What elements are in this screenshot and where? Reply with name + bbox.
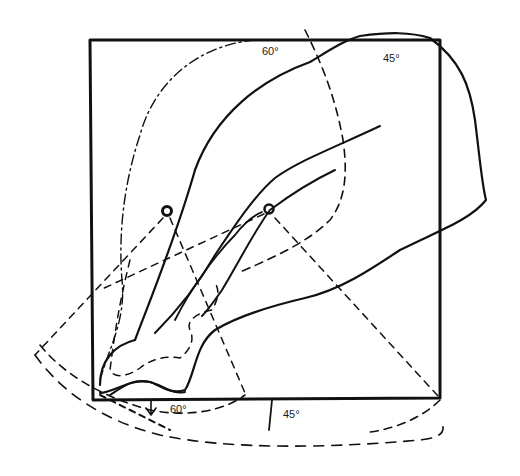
outer-outline <box>100 33 486 393</box>
label-bottom-45: 45° <box>283 408 300 420</box>
arrow-down-icon <box>146 400 156 415</box>
dashed-ray-right-b <box>275 218 438 396</box>
dashed-ray-right-a <box>100 214 264 290</box>
dashed-corner-arc <box>370 400 440 432</box>
frame-square <box>90 40 440 400</box>
bone-upper-line <box>155 126 380 333</box>
label-top-60: 60° <box>262 45 279 57</box>
bone-inner-line <box>175 212 262 320</box>
dashed-lower-arc-60 <box>40 345 245 413</box>
pivot-left-marker <box>163 207 172 216</box>
dashdot-arc <box>100 40 255 380</box>
dashed-ray-left-a <box>35 218 163 355</box>
dashed-arc-60 <box>240 30 345 272</box>
foot-bottom-wave <box>110 381 185 395</box>
label-top-45: 45° <box>383 52 400 64</box>
tick-45 <box>269 400 272 430</box>
diagram-canvas <box>0 0 520 476</box>
label-bottom-60: 60° <box>170 403 187 415</box>
